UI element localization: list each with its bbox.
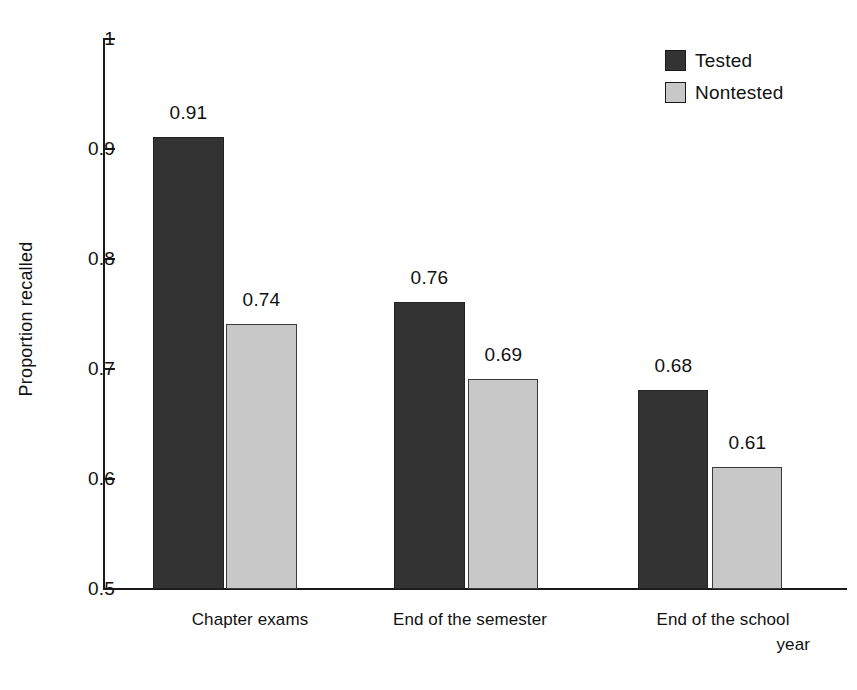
bar-value-nontested-end-of-semester: 0.69 [453,345,554,364]
bar-value-tested-end-of-semester: 0.76 [379,268,480,287]
x-axis-label-end-of-school-year: End of the school year [608,607,838,657]
legend-item-tested: Tested [665,44,783,76]
x-axis-label-line2: year [608,632,838,657]
x-axis-label-end-of-semester: End of the semester [355,607,585,632]
legend: Tested Nontested [665,44,783,108]
legend-swatch-tested-icon [665,50,686,71]
bar-value-nontested-chapter-exams: 0.74 [211,290,312,309]
x-axis-label-chapter-exams: Chapter exams [145,607,355,632]
legend-item-nontested: Nontested [665,76,783,108]
x-axis-label-line1: End of the semester [393,610,547,629]
bar-nontested-end-of-school-year[interactable] [712,467,782,589]
bar-chart: Proportion recalled 1 0.9 0.8 0.7 0.6 0.… [0,0,857,690]
bar-value-nontested-end-of-school-year: 0.61 [697,433,798,452]
legend-label-tested: Tested [695,51,752,70]
legend-label-nontested: Nontested [695,83,783,102]
x-axis-label-line1: End of the school [656,610,789,629]
bar-tested-end-of-school-year[interactable] [638,390,708,589]
bar-nontested-chapter-exams[interactable] [226,324,297,589]
bar-value-tested-end-of-school-year: 0.68 [623,356,724,375]
x-axis-label-line1: Chapter exams [192,610,309,629]
legend-swatch-nontested-icon [665,82,686,103]
bar-nontested-end-of-semester[interactable] [468,379,538,589]
bar-value-tested-chapter-exams: 0.91 [138,103,239,122]
bar-tested-chapter-exams[interactable] [153,137,224,589]
